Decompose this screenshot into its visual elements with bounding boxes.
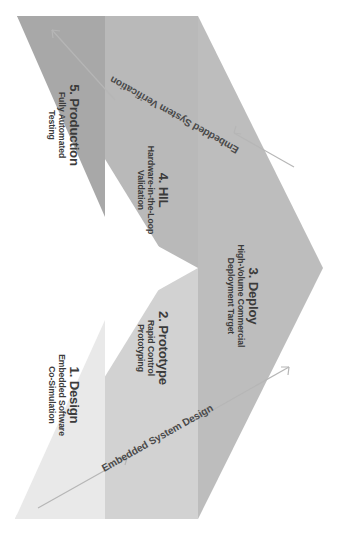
stage-sub1-prototype: Rapid Control [146, 320, 156, 376]
stage-sub1-production: Fully Automated [57, 92, 67, 158]
stage-sub2-deploy: Deployment Target [226, 258, 236, 335]
diagram-canvas: 5. Production Fully Automated Testing 4.… [0, 0, 339, 535]
stage-sub1-deploy: High-Volume Commercial [236, 245, 246, 348]
stage-title-design: 1. Design [67, 367, 82, 424]
stage-sub1-hil: Hardware-in-the-Loop [146, 146, 156, 234]
stage-title-hil: 4. HIL [156, 173, 171, 208]
stage-sub2-design: Co-Simulation [47, 366, 57, 424]
stage-title-production: 5. Production [67, 84, 82, 166]
stage-sub1-design: Embedded Software [57, 354, 67, 436]
stage-title-prototype: 2. Prototype [156, 311, 171, 385]
stage-sub2-prototype: Prototyping [136, 324, 146, 372]
v-model-diagram: 5. Production Fully Automated Testing 4.… [0, 0, 339, 535]
stage-sub2-hil: Validation [136, 170, 146, 210]
stage-sub2-production: Testing [47, 110, 57, 140]
stage-title-deploy: 3. Deploy [246, 268, 261, 326]
